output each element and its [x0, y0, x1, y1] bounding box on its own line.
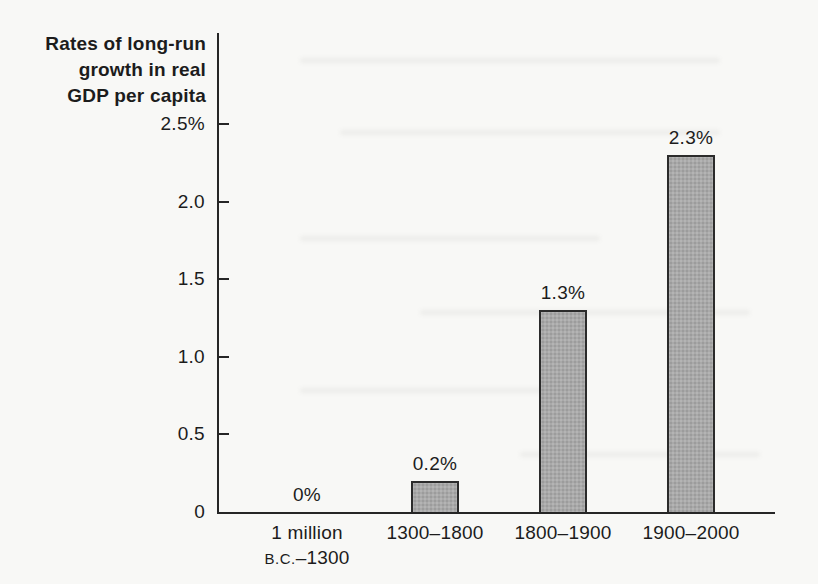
- x-tick-label: 1300–1800: [365, 520, 505, 545]
- bar-value-label: 1.3%: [518, 282, 608, 304]
- x-tick-label: 1 millionB.C.–1300: [237, 520, 377, 571]
- bar-value-label: 0%: [262, 484, 352, 506]
- y-tick-label: 0.5: [178, 423, 205, 445]
- y-tick-mark: [219, 356, 229, 358]
- y-tick-label: 2.0: [178, 191, 205, 213]
- bar: [667, 155, 715, 512]
- x-tick-label: 1800–1900: [493, 520, 633, 545]
- bar: [539, 310, 587, 512]
- y-tick-mark: [219, 123, 229, 125]
- smallcaps-bc: B.C.: [264, 550, 295, 567]
- plot-area: 0%1 millionB.C.–13000.2%1300–18001.3%180…: [217, 33, 775, 514]
- x-tick-label: 1900–2000: [621, 520, 761, 545]
- y-tick-mark: [219, 201, 229, 203]
- y-axis-labels: 00.51.01.52.02.5%: [0, 33, 205, 512]
- bar: [411, 481, 459, 512]
- y-tick-label: 1.5: [178, 268, 205, 290]
- y-tick-mark: [219, 278, 229, 280]
- bar-value-label: 0.2%: [390, 453, 480, 475]
- scanned-page: Rates of long-run growth in real GDP per…: [0, 0, 818, 584]
- y-tick-label: 1.0: [178, 346, 205, 368]
- y-tick-label: 0: [194, 501, 205, 523]
- y-tick-label: 2.5%: [160, 113, 205, 135]
- bar-value-label: 2.3%: [646, 127, 736, 149]
- y-tick-mark: [219, 433, 229, 435]
